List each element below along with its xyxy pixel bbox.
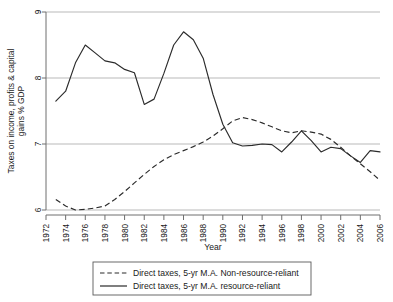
y-axis-ticks: 6789 <box>34 9 46 212</box>
y-tick-label: 6 <box>34 207 43 212</box>
x-tick-label: 1998 <box>297 224 306 243</box>
line-chart: Taxes on income, profits & capitalgains … <box>0 0 393 302</box>
x-tick-label: 2000 <box>317 224 326 243</box>
x-tick-label: 1994 <box>258 224 267 243</box>
x-axis-title: Year <box>204 242 222 252</box>
x-tick-label: 1972 <box>42 224 51 243</box>
y-tick-label: 9 <box>34 9 43 14</box>
data-series-group <box>56 32 380 210</box>
legend-label-non-resource-reliant: Direct taxes, 5-yr M.A. Non-resource-rel… <box>133 268 299 278</box>
x-tick-label: 1984 <box>160 224 169 243</box>
y-axis-title: Taxes on income, profits & capitalgains … <box>6 48 26 173</box>
x-tick-label: 1988 <box>199 224 208 243</box>
y-tick-label: 8 <box>34 75 43 80</box>
series-line-resource-reliant <box>56 32 380 163</box>
x-tick-label: 1986 <box>180 224 189 243</box>
legend-label-resource-reliant: Direct taxes, 5-yr M.A. resource-reliant <box>133 281 281 291</box>
x-tick-label: 1980 <box>121 224 130 243</box>
x-tick-label: 2006 <box>376 224 385 243</box>
x-tick-label: 1992 <box>238 224 247 243</box>
chart-legend: Direct taxes, 5-yr M.A. Non-resource-rel… <box>93 262 311 295</box>
gridlines <box>46 12 380 210</box>
x-tick-label: 2002 <box>337 224 346 243</box>
chart-figure: Taxes on income, profits & capitalgains … <box>0 0 393 302</box>
x-tick-label: 2004 <box>356 224 365 243</box>
x-tick-label: 1978 <box>101 224 110 243</box>
x-tick-label: 1974 <box>62 224 71 243</box>
x-tick-label: 1976 <box>81 224 90 243</box>
y-tick-label: 7 <box>34 141 43 146</box>
x-tick-label: 1996 <box>278 224 287 243</box>
x-tick-label: 1982 <box>140 224 149 243</box>
x-tick-label: 1990 <box>219 224 228 243</box>
x-axis-ticks: 1972197419761978198019821984198619881990… <box>42 215 385 242</box>
series-line-non-resource-reliant <box>56 118 380 210</box>
